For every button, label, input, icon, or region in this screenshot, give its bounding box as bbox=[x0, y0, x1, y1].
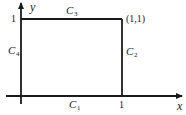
svg-text:1: 1 bbox=[77, 104, 81, 112]
diagram-canvas: y x 1 1 (1,1) C 3 C 2 C 4 C 1 bbox=[0, 0, 186, 115]
svg-text:3: 3 bbox=[74, 10, 78, 18]
label-c2: C 2 bbox=[126, 45, 138, 59]
x-tick-1: 1 bbox=[119, 99, 124, 110]
svg-text:4: 4 bbox=[16, 50, 20, 58]
label-c3: C 3 bbox=[66, 4, 78, 18]
x-axis-label: x bbox=[176, 99, 183, 113]
label-c1: C 1 bbox=[69, 98, 81, 112]
corner-label: (1,1) bbox=[126, 13, 145, 25]
label-c4: C 4 bbox=[8, 44, 20, 58]
svg-text:C: C bbox=[126, 45, 134, 57]
svg-text:C: C bbox=[69, 98, 77, 110]
svg-text:2: 2 bbox=[134, 51, 138, 59]
y-axis-label: y bbox=[29, 0, 36, 14]
svg-text:C: C bbox=[8, 44, 16, 56]
y-tick-1: 1 bbox=[11, 13, 16, 24]
svg-text:C: C bbox=[66, 4, 74, 16]
